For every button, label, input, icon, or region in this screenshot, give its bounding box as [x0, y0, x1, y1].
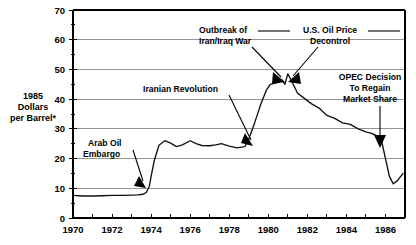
annotation-arab-oil-embargo-line-1: Arab Oil [88, 138, 121, 148]
x-tick-label-1980: 1980 [258, 224, 279, 235]
y-tick-label-40: 40 [54, 94, 65, 105]
x-tick-label-1982: 1982 [297, 224, 318, 235]
y-tick-label-10: 10 [54, 183, 65, 194]
annotation-iran-iraq-war-line-1: Outbreak of [199, 25, 247, 35]
oil-price-chart: 010203040506070 197019721974197619781980… [0, 0, 416, 245]
x-tick-label-1970: 1970 [62, 224, 83, 235]
y-axis-title-line-2: Dollars [18, 102, 49, 112]
x-tick-label-1986: 1986 [375, 224, 396, 235]
annotation-arab-oil-embargo-line-2: Embargo [83, 149, 120, 159]
x-axis-tick-labels: 197019721974197619781980198219841986 [62, 224, 396, 235]
y-axis-title-line-1: 1985 [23, 91, 43, 101]
x-tick-label-1976: 1976 [180, 224, 201, 235]
annotation-iranian-revolution-line-1: Iranian Revolution [143, 84, 218, 94]
x-tick-label-1984: 1984 [336, 224, 358, 235]
annotation-opec-decision-line-3: Market Share [343, 94, 397, 104]
y-tick-label-50: 50 [54, 64, 65, 75]
annotation-us-oil-price-decontrol-line-2: Decontrol [310, 36, 350, 46]
y-tick-label-70: 70 [54, 5, 65, 16]
y-tick-label-0: 0 [60, 213, 65, 224]
annotation-iran-iraq-war-line-2: Iran/Iraq War [199, 36, 252, 46]
annotation-us-oil-price-decontrol-line-1: U.S. Oil Price [303, 25, 357, 35]
y-axis-title-line-3: per Barrel* [10, 113, 57, 123]
y-tick-label-60: 60 [54, 34, 65, 45]
x-tick-label-1978: 1978 [219, 224, 240, 235]
x-tick-label-1972: 1972 [101, 224, 122, 235]
annotation-opec-decision-line-1: OPEC Decision [339, 72, 402, 82]
y-tick-label-30: 30 [54, 123, 65, 134]
annotation-opec-decision-line-2: To Regain [350, 83, 391, 93]
y-tick-label-20: 20 [54, 153, 65, 164]
chart-canvas: 010203040506070 197019721974197619781980… [0, 0, 416, 245]
x-tick-label-1974: 1974 [141, 224, 163, 235]
